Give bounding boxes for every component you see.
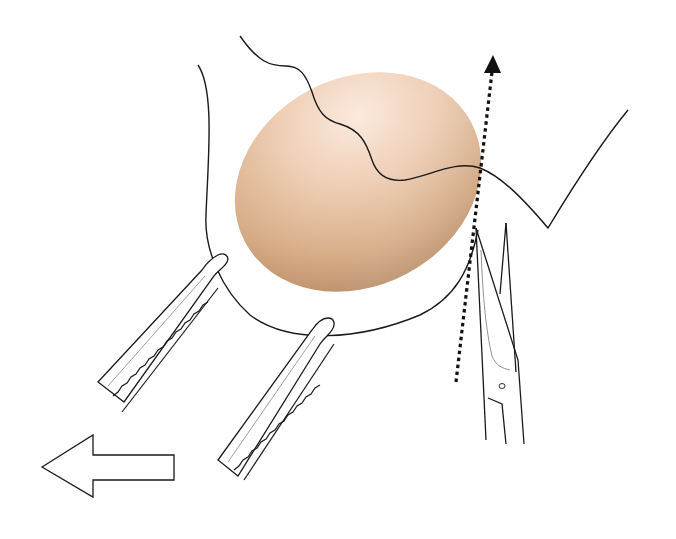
scissors [476,223,524,444]
right-forceps [218,318,334,480]
traction-arrow-icon [42,435,174,497]
arrowhead-icon [484,55,501,73]
surgical-illustration [0,0,676,539]
tissue-mass [196,30,520,334]
scissors-pivot-icon [499,384,505,389]
left-forceps [98,254,228,412]
illustration-canvas [0,0,676,539]
